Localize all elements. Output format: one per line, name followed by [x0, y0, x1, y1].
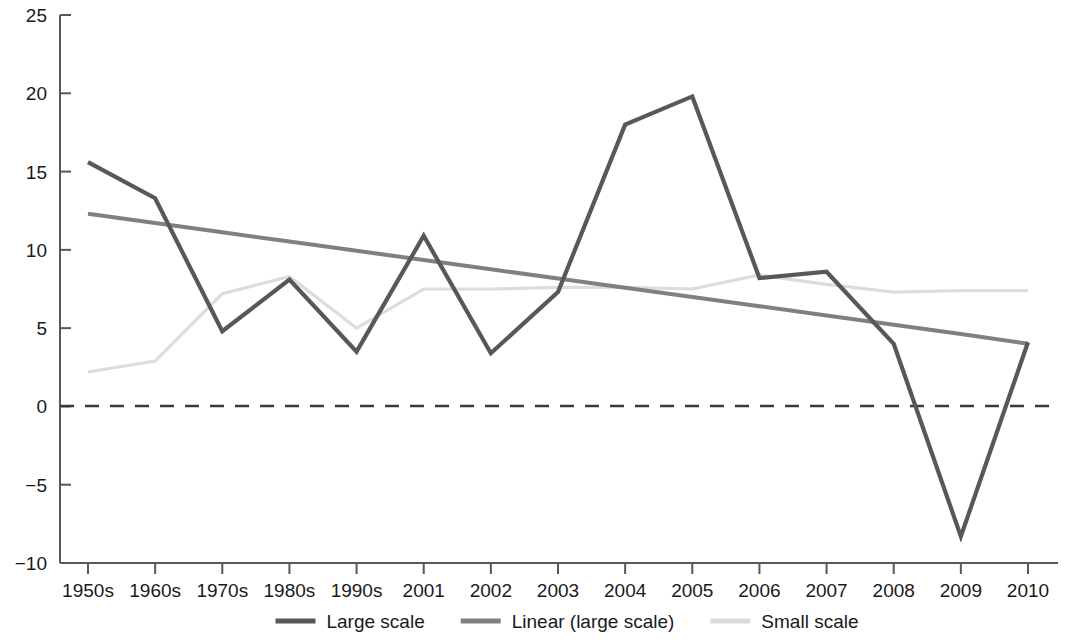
x-tick-label: 2002: [470, 580, 512, 601]
series-line-large-scale: [88, 96, 1028, 536]
y-tick-label: −5: [25, 475, 47, 496]
y-tick-label: 15: [26, 162, 47, 183]
x-tick-marks: [88, 563, 1028, 574]
x-tick-label: 1970s: [196, 580, 248, 601]
x-tick-label: 2001: [403, 580, 445, 601]
y-tick-label: 25: [26, 5, 47, 26]
x-tick-labels: 1950s1960s1970s1980s1990s200120022003200…: [62, 580, 1049, 601]
y-tick-label: 5: [36, 318, 47, 339]
y-tick-label: 20: [26, 83, 47, 104]
x-tick-label: 2006: [738, 580, 780, 601]
x-tick-label: 2007: [805, 580, 847, 601]
x-tick-label: 2009: [940, 580, 982, 601]
x-tick-label: 2003: [537, 580, 579, 601]
y-tick-label: −10: [15, 553, 47, 574]
x-tick-label: 1960s: [129, 580, 181, 601]
data-series-group: [88, 96, 1028, 536]
x-axis: 1950s1960s1970s1980s1990s200120022003200…: [60, 563, 1058, 601]
legend-label: Large scale: [326, 611, 424, 632]
chart-legend: Large scaleLinear (large scale)Small sca…: [275, 611, 858, 632]
x-tick-label: 2010: [1007, 580, 1049, 601]
y-tick-label: 0: [36, 396, 47, 417]
x-tick-label: 1990s: [331, 580, 383, 601]
x-tick-label: 2005: [671, 580, 713, 601]
y-tick-marks: [60, 15, 71, 563]
legend-label: Linear (large scale): [512, 611, 675, 632]
chart-container: 2520151050−5−10 1950s1960s1970s1980s1990…: [0, 0, 1066, 643]
x-tick-label: 1980s: [264, 580, 316, 601]
y-tick-label: 10: [26, 240, 47, 261]
x-tick-label: 2004: [604, 580, 647, 601]
x-tick-label: 1950s: [62, 580, 114, 601]
y-axis: 2520151050−5−10: [15, 5, 71, 574]
legend-label: Small scale: [761, 611, 858, 632]
y-tick-labels: 2520151050−5−10: [15, 5, 47, 574]
line-chart: 2520151050−5−10 1950s1960s1970s1980s1990…: [0, 0, 1066, 643]
x-tick-label: 2008: [873, 580, 915, 601]
